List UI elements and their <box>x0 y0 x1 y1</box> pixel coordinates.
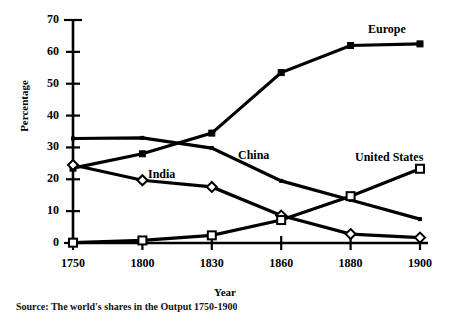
x-tick-label-1900: 1900 <box>385 256 450 271</box>
y-tick-label-0: 0 <box>25 235 59 250</box>
chart-axes <box>64 20 428 250</box>
x-tick-label-1750: 1750 <box>38 256 108 271</box>
x-tick-label-1830: 1830 <box>177 256 247 271</box>
y-tick-label-10: 10 <box>25 203 59 218</box>
y-tick-label-50: 50 <box>25 76 59 91</box>
figure-caption: Source: The world's shares in the Output… <box>16 301 237 312</box>
series-label-india: India <box>148 167 175 182</box>
series-label-europe: Europe <box>368 22 406 37</box>
series-india <box>68 160 425 243</box>
series-label-united-states: United States <box>355 150 423 165</box>
y-tick-label-60: 60 <box>25 44 59 59</box>
y-tick-label-30: 30 <box>25 139 59 154</box>
chart-figure: Percentage Year 706050403020100 17501800… <box>0 0 450 312</box>
x-tick-label-1800: 1800 <box>107 256 177 271</box>
x-tick-label-1880: 1880 <box>316 256 386 271</box>
y-tick-label-70: 70 <box>25 12 59 27</box>
chart-series-layer <box>68 41 425 247</box>
y-tick-label-20: 20 <box>25 171 59 186</box>
series-label-china: China <box>238 148 269 163</box>
x-axis-title: Year <box>0 286 450 298</box>
y-tick-label-40: 40 <box>25 108 59 123</box>
x-tick-label-1860: 1860 <box>246 256 316 271</box>
